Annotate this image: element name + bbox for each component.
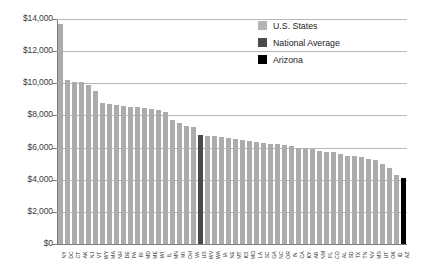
x-label-slot: ID bbox=[393, 246, 400, 272]
x-label-slot: GA bbox=[267, 246, 274, 272]
bar-slot bbox=[197, 19, 204, 244]
y-axis-tick-label: $0 bbox=[44, 238, 53, 248]
legend-label: National Average bbox=[273, 38, 340, 48]
bar-AK bbox=[79, 82, 84, 244]
x-label-slot: NE bbox=[225, 246, 232, 272]
x-label-slot: CT bbox=[71, 246, 78, 272]
bar-slot bbox=[155, 19, 162, 244]
bar-slot bbox=[141, 19, 148, 244]
y-axis-tick-label: $4,000 bbox=[28, 174, 53, 184]
bar-OR bbox=[282, 145, 287, 244]
bar-OH bbox=[184, 126, 189, 244]
y-axis-tick-label: $10,000 bbox=[23, 77, 53, 87]
x-label-slot: ME bbox=[148, 246, 155, 272]
x-label-slot: KS bbox=[239, 246, 246, 272]
bar-slot bbox=[379, 19, 386, 244]
y-axis-tick bbox=[52, 244, 57, 245]
bar-US bbox=[198, 135, 203, 244]
x-label-slot: SC bbox=[260, 246, 267, 272]
x-axis-tick-label: AZ bbox=[404, 252, 410, 259]
x-label-slot: FL bbox=[323, 246, 330, 272]
y-axis-tick-label: $6,000 bbox=[28, 142, 53, 152]
x-label-slot: TN bbox=[358, 246, 365, 272]
bar-IL bbox=[163, 112, 168, 244]
bar-slot bbox=[218, 19, 225, 244]
bar-slot bbox=[386, 19, 393, 244]
y-axis-tick-label: $8,000 bbox=[28, 109, 53, 119]
bar-slot bbox=[372, 19, 379, 244]
bar-NV bbox=[366, 159, 371, 244]
x-label-slot: OK bbox=[386, 246, 393, 272]
bar-slot bbox=[190, 19, 197, 244]
bar-slot bbox=[232, 19, 239, 244]
x-label-slot: NY bbox=[57, 246, 64, 272]
legend-label: Arizona bbox=[273, 55, 303, 65]
x-axis-line bbox=[57, 244, 407, 245]
bar-OK bbox=[387, 168, 392, 244]
bar-IN bbox=[289, 146, 294, 244]
bar-AR bbox=[310, 149, 315, 244]
bar-slot bbox=[351, 19, 358, 244]
plot-area bbox=[57, 19, 407, 244]
bar-slot bbox=[183, 19, 190, 244]
bar-slot bbox=[204, 19, 211, 244]
bar-VA bbox=[191, 127, 196, 244]
bar-NJ bbox=[86, 85, 91, 244]
x-label-slot: US bbox=[197, 246, 204, 272]
bar-AZ bbox=[401, 178, 406, 244]
x-label-slot: IA bbox=[218, 246, 225, 272]
bar-TX bbox=[352, 156, 357, 244]
bar-slot bbox=[148, 19, 155, 244]
bar-WV bbox=[205, 136, 210, 244]
bar-NH bbox=[114, 105, 119, 244]
bar-KY bbox=[303, 148, 308, 244]
bar-WA bbox=[212, 136, 217, 244]
bar-slot bbox=[99, 19, 106, 244]
bar-slot bbox=[113, 19, 120, 244]
x-label-slot: AL bbox=[337, 246, 344, 272]
x-label-slot: NC bbox=[274, 246, 281, 272]
bar-series bbox=[57, 19, 407, 244]
bar-slot bbox=[92, 19, 99, 244]
x-label-slot: OR bbox=[281, 246, 288, 272]
x-label-slot: AK bbox=[78, 246, 85, 272]
x-label-slot: IN bbox=[288, 246, 295, 272]
bar-slot bbox=[71, 19, 78, 244]
bar-WI bbox=[156, 110, 161, 244]
bar-slot bbox=[169, 19, 176, 244]
x-label-slot: CO bbox=[330, 246, 337, 272]
bar-LA bbox=[254, 142, 259, 244]
bar-slot bbox=[85, 19, 92, 244]
x-label-slot: PA bbox=[127, 246, 134, 272]
bar-NC bbox=[275, 144, 280, 244]
bar-slot bbox=[211, 19, 218, 244]
legend-swatch-icon bbox=[258, 55, 267, 64]
bar-NY bbox=[58, 24, 63, 244]
x-label-slot: UT bbox=[379, 246, 386, 272]
bar-slot bbox=[393, 19, 400, 244]
bar-slot bbox=[358, 19, 365, 244]
x-label-slot: MI bbox=[176, 246, 183, 272]
bar-slot bbox=[344, 19, 351, 244]
bar-MS bbox=[373, 160, 378, 244]
x-label-slot: AR bbox=[309, 246, 316, 272]
bar-slot bbox=[176, 19, 183, 244]
x-label-slot: OH bbox=[183, 246, 190, 272]
bar-VT bbox=[93, 91, 98, 244]
x-label-slot: DE bbox=[120, 246, 127, 272]
legend-item-natavg: National Average bbox=[258, 34, 340, 51]
x-label-slot: WY bbox=[99, 246, 106, 272]
bar-slot bbox=[134, 19, 141, 244]
x-label-slot: MS bbox=[372, 246, 379, 272]
bar-slot bbox=[127, 19, 134, 244]
bar-slot bbox=[78, 19, 85, 244]
legend-item-state: U.S. States bbox=[258, 17, 340, 34]
y-axis-tick-label: $2,000 bbox=[28, 206, 53, 216]
x-label-slot: MT bbox=[232, 246, 239, 272]
x-label-slot: TX bbox=[351, 246, 358, 272]
bar-SD bbox=[345, 156, 350, 244]
bar-slot bbox=[365, 19, 372, 244]
bar-CT bbox=[72, 82, 77, 244]
bar-KS bbox=[240, 140, 245, 244]
bar-UT bbox=[380, 164, 385, 244]
